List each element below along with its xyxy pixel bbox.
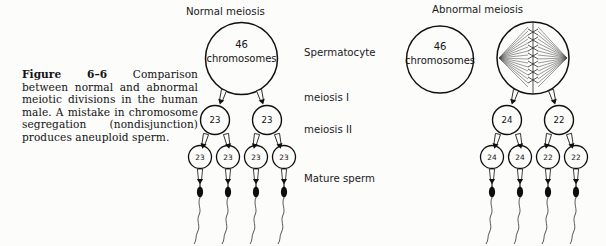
abnormal-meiosis1-count-2: 22	[554, 115, 565, 125]
normal-arrow-sperm-1	[197, 169, 203, 184]
abnormal-meiosis2-count-1: 24	[487, 153, 497, 162]
abnormal-meiosis2-count-2: 24	[515, 153, 525, 162]
normal-meiosis2-count-4: 23	[279, 153, 289, 162]
abnormal-meiosis1-cell-2: 22	[545, 106, 574, 135]
normal-arrow-sperm-2	[225, 169, 231, 184]
normal-meiosis1-cell-2: 23	[253, 106, 282, 135]
normal-meiosis1-count-1: 23	[210, 115, 221, 125]
abnormal-arrow-m1-left	[509, 89, 519, 105]
normal-meiosis2-cell-4: 23	[273, 146, 296, 169]
abnormal-spermatocyte-unit: chromosomes	[405, 55, 475, 66]
abnormal-spermatocyte-count: 46	[434, 41, 447, 52]
abnormal-meiosis1-cell-1: 24	[493, 106, 522, 135]
normal-spermatocyte-unit: chromosomes	[206, 53, 276, 64]
normal-sperm-2	[222, 183, 231, 244]
abnormal-arrow-sperm-3	[545, 169, 551, 184]
abnormal-meiosis2-count-3: 22	[543, 153, 552, 162]
abnormal-meiosis2-cell-4: 22	[565, 146, 588, 169]
normal-sperm-1	[194, 183, 203, 244]
normal-meiosis2-cell-3: 23	[245, 146, 268, 169]
abnormal-sperm-4	[570, 183, 579, 244]
abnormal-meiosis2-count-4: 22	[571, 153, 580, 162]
normal-sperm-3	[250, 183, 259, 244]
abnormal-arrow-m2-2	[515, 133, 524, 149]
abnormal-meiosis2-cell-1: 24	[481, 146, 504, 169]
normal-meiosis2-count-2: 23	[223, 153, 233, 162]
abnormal-sperm-2	[514, 183, 523, 244]
abnormal-sperm-1	[486, 183, 495, 244]
meiosis-diagram: 46 chromosomes 23 23	[0, 0, 606, 246]
abnormal-spindle-cell	[497, 22, 569, 94]
normal-arrow-sperm-4	[281, 169, 287, 184]
normal-arrow-m1-right	[256, 89, 266, 105]
abnormal-sperm-3	[542, 183, 551, 244]
normal-meiosis2-cell-2: 23	[217, 146, 240, 169]
normal-arrow-m2-1	[199, 133, 209, 149]
abnormal-meiosis1-count-1: 24	[502, 115, 513, 125]
abnormal-arrow-sperm-4	[573, 169, 579, 184]
normal-meiosis1-cell-1: 23	[201, 106, 230, 135]
normal-meiosis-column: 46 chromosomes 23 23	[189, 23, 296, 245]
abnormal-arrow-m2-1	[491, 133, 501, 149]
abnormal-meiosis-column: 46 chromosomes	[405, 22, 588, 244]
normal-meiosis2-count-1: 23	[195, 153, 205, 162]
normal-arrow-m1-left	[217, 89, 227, 105]
abnormal-meiosis2-cell-2: 24	[509, 146, 532, 169]
normal-meiosis1-count-2: 23	[262, 115, 273, 125]
abnormal-arrow-sperm-2	[517, 169, 523, 184]
abnormal-meiosis2-cell-3: 22	[537, 146, 560, 169]
abnormal-spermatocyte-cell: 46 chromosomes	[405, 26, 475, 93]
figure-page: Figure 6–6 Comparison between normal and…	[0, 0, 606, 246]
normal-arrow-m2-2	[223, 133, 232, 149]
normal-meiosis2-count-3: 23	[251, 153, 261, 162]
abnormal-arrow-sperm-1	[489, 169, 495, 184]
normal-arrow-sperm-3	[253, 169, 259, 184]
abnormal-arrow-m2-3	[543, 133, 552, 149]
normal-sperm-4	[278, 183, 287, 244]
normal-spermatocyte-count: 46	[235, 39, 248, 50]
normal-arrow-m2-3	[251, 133, 260, 149]
abnormal-arrow-m1-right	[548, 89, 558, 105]
normal-meiosis2-cell-1: 23	[189, 146, 212, 169]
normal-spermatocyte-cell: 46 chromosomes	[206, 23, 278, 95]
